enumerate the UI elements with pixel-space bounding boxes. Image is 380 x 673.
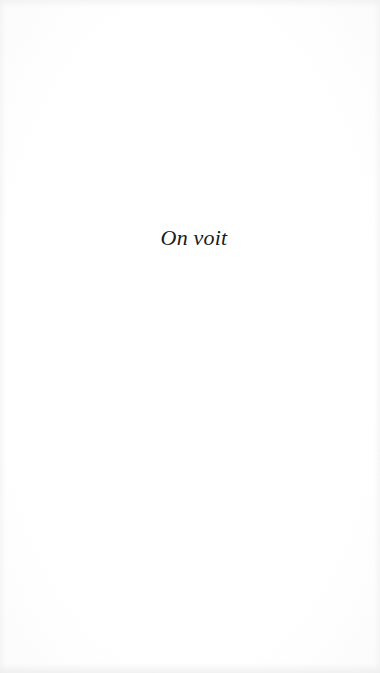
page-edge-bottom — [0, 663, 380, 673]
page-edge-right — [374, 0, 380, 673]
page-edge-left — [0, 0, 6, 673]
document-page: On voit — [0, 0, 380, 673]
page-text: On voit — [0, 225, 380, 251]
page-edge-top — [0, 0, 380, 8]
